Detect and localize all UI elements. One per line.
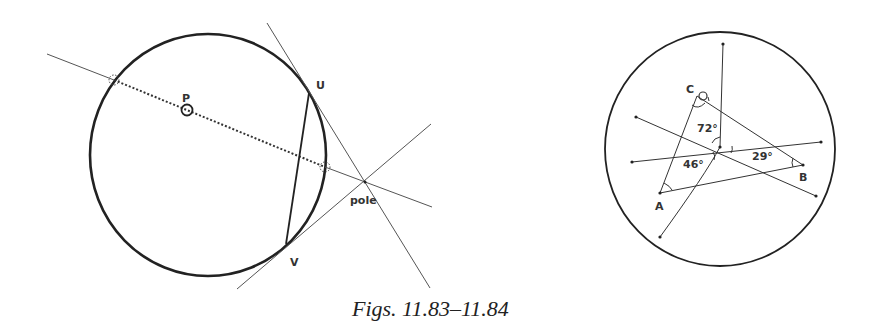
point-C-marker <box>699 92 707 100</box>
point-C-handle-icon <box>708 97 709 101</box>
figure-11-84: C A B 72° 46° 29° <box>605 32 835 266</box>
disk-boundary <box>605 32 835 266</box>
tangent-line-V <box>237 124 431 289</box>
figure-11-83: P U V pole <box>47 23 432 289</box>
pole-point <box>364 181 367 184</box>
angle-arc-B <box>792 158 793 167</box>
label-U: U <box>316 79 325 92</box>
side-AB <box>660 165 803 193</box>
figure-canvas: P U V pole C A B 72° 46° 29° <box>0 0 878 330</box>
polar-line-outer-left <box>47 54 114 80</box>
label-A: A <box>655 200 664 213</box>
side-CA <box>660 96 697 193</box>
figure-caption: Figs. 11.83–11.84 <box>352 296 552 322</box>
diameter-dotted <box>114 80 325 167</box>
angle-arc-72 <box>712 137 720 143</box>
center-marker-P <box>182 105 193 116</box>
tangent-line-U <box>267 23 430 288</box>
label-P: P <box>182 92 190 105</box>
angle-arc-29 <box>731 146 732 153</box>
angle-label-29: 29° <box>752 150 773 163</box>
label-V: V <box>290 256 299 269</box>
angle-label-46: 46° <box>683 158 704 171</box>
angle-arc-A <box>664 183 672 190</box>
main-circle <box>90 34 326 276</box>
label-B: B <box>799 171 807 184</box>
angle-label-72: 72° <box>697 122 718 135</box>
label-C: C <box>686 83 694 96</box>
label-pole: pole <box>350 194 377 207</box>
